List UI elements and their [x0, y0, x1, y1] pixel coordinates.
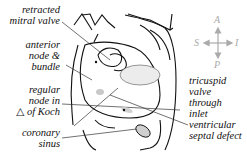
label-regular-node-koch: regular node in △ of Koch — [4, 84, 60, 117]
compass-label-posterior: P — [214, 59, 220, 70]
coronary-sinus-shape — [134, 122, 153, 139]
label-anterior-node-bundle: anterior node & bundle — [4, 39, 60, 72]
compass-label-inferior: I — [235, 37, 238, 48]
orientation-compass: A P S I — [198, 14, 238, 72]
label-tricuspid-valve-vsd: tricuspid valve through inlet ventricula… — [189, 75, 247, 141]
label-retracted-mitral-valve: retracted mitral valve — [4, 4, 60, 26]
valve-opening — [98, 48, 122, 67]
compass-label-superior: S — [194, 37, 199, 48]
compass-label-anterior: A — [214, 14, 220, 25]
label-coronary-sinus: coronary sinus — [4, 127, 60, 149]
